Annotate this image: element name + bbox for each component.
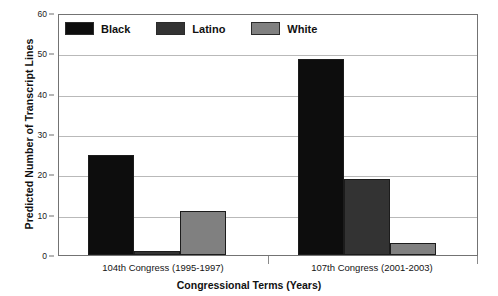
y-tick-mark-10 bbox=[49, 215, 54, 216]
y-tick-label-30: 30 bbox=[38, 130, 47, 140]
x-group-label-107th: 107th Congress (2001-2003) bbox=[311, 262, 432, 273]
y-tick-label-10: 10 bbox=[38, 211, 47, 221]
bar-latino-104th bbox=[134, 251, 180, 255]
x-group-label-104th: 104th Congress (1995-1997) bbox=[102, 262, 223, 273]
y-tick-label-20: 20 bbox=[38, 170, 47, 180]
y-tick-label-0: 0 bbox=[42, 251, 47, 261]
bar-white-104th bbox=[180, 211, 226, 255]
legend-item-black: Black bbox=[65, 22, 130, 35]
x-axis-separator-tick bbox=[268, 256, 269, 264]
y-tick-label-40: 40 bbox=[38, 90, 47, 100]
legend-label-white: White bbox=[287, 23, 317, 35]
y-tick-label-50: 50 bbox=[38, 49, 47, 59]
legend: Black Latino White bbox=[65, 22, 317, 35]
bar-black-104th bbox=[88, 155, 134, 255]
y-tick-mark-60 bbox=[49, 14, 54, 15]
x-axis-end-tick bbox=[477, 256, 478, 264]
legend-item-white: White bbox=[251, 22, 317, 35]
y-tick-mark-0 bbox=[49, 256, 54, 257]
bar-black-107th bbox=[298, 59, 344, 255]
bar-latino-107th bbox=[344, 179, 390, 255]
bars-layer bbox=[59, 15, 477, 255]
legend-label-black: Black bbox=[101, 23, 130, 35]
legend-swatch-white-icon bbox=[251, 22, 280, 35]
bar-white-107th bbox=[390, 243, 436, 255]
y-axis-ticks: 60 50 40 30 20 10 0 bbox=[28, 0, 54, 296]
y-tick-mark-30 bbox=[49, 135, 54, 136]
legend-swatch-latino-icon bbox=[156, 22, 185, 35]
y-tick-mark-20 bbox=[49, 175, 54, 176]
y-tick-label-60: 60 bbox=[38, 9, 47, 19]
x-axis-title: Congressional Terms (Years) bbox=[0, 279, 498, 291]
plot-area: Black Latino White bbox=[58, 14, 478, 256]
legend-swatch-black-icon bbox=[65, 22, 94, 35]
bar-chart: Predicted Number of Transcript Lines 60 … bbox=[0, 0, 498, 296]
legend-item-latino: Latino bbox=[156, 22, 225, 35]
legend-label-latino: Latino bbox=[192, 23, 225, 35]
y-tick-mark-40 bbox=[49, 94, 54, 95]
y-tick-mark-50 bbox=[49, 54, 54, 55]
